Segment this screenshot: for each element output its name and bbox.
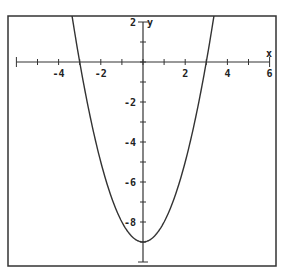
parabola-chart: -4-2246 2-2-4-6-8 x y — [0, 0, 282, 271]
x-tick-label: -4 — [53, 68, 65, 79]
y-tick-label: -8 — [124, 217, 136, 228]
y-tick-label: -2 — [124, 97, 136, 108]
x-tick-label: 6 — [267, 68, 273, 79]
x-tick-label: 2 — [182, 68, 188, 79]
y-tick-label: -6 — [124, 177, 136, 188]
y-axis-label: y — [147, 17, 153, 28]
x-tick-label: 4 — [224, 68, 230, 79]
plot-frame — [8, 16, 276, 266]
x-axis-label: x — [266, 48, 272, 59]
y-tick-label: 2 — [130, 17, 136, 28]
y-tick-label: -4 — [124, 137, 136, 148]
x-tick-label: -2 — [95, 68, 107, 79]
